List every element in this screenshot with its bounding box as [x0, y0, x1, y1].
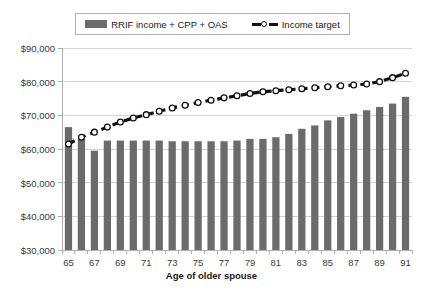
- x-tick-label: 73: [167, 257, 178, 268]
- x-axis-tick-labels: 6567697173757779818385878991: [0, 0, 423, 294]
- x-tick-label: 79: [245, 257, 256, 268]
- x-tick-label: 67: [89, 257, 100, 268]
- x-tick-label: 87: [348, 257, 359, 268]
- x-tick-label: 83: [297, 257, 308, 268]
- x-tick-label: 71: [141, 257, 152, 268]
- x-tick-label: 69: [115, 257, 126, 268]
- x-tick-label: 77: [219, 257, 230, 268]
- plot-area: $30,000$40,000$50,000$60,000$70,000$80,0…: [0, 0, 423, 294]
- x-tick-label: 75: [193, 257, 204, 268]
- x-tick-label: 81: [271, 257, 282, 268]
- x-tick-label: 91: [400, 257, 411, 268]
- x-axis-title: Age of older spouse: [0, 270, 423, 281]
- x-tick-label: 85: [322, 257, 333, 268]
- x-tick-label: 65: [63, 257, 74, 268]
- chart-container: RRIF income + CPP + OAS Income target $3…: [0, 0, 423, 294]
- x-tick-label: 89: [374, 257, 385, 268]
